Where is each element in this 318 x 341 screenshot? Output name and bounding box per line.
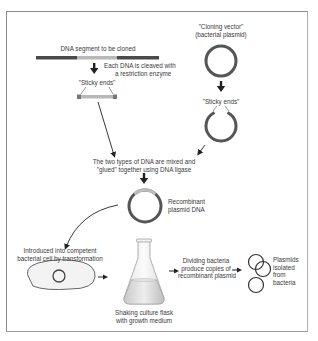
transformation-label-line2: bacterial cell by transformation <box>8 255 112 263</box>
to-transformation-arrow <box>66 205 118 247</box>
flask-label-line2: with growth medium <box>104 317 184 325</box>
cut-dna-fragment <box>77 87 117 99</box>
transformation-label-line1: Introduced into competent <box>8 247 112 255</box>
bacterial-cell <box>27 260 95 290</box>
cloning-vector-label-line2: (bacterial plasmid) <box>190 31 252 39</box>
isolated-label-line2: isolated <box>273 264 299 272</box>
cleave-label-line1: Each DNA is cleaved with <box>104 62 176 70</box>
dna-segment-bar <box>36 56 159 60</box>
sticky-ends-left-label: "Sticky ends" <box>74 79 120 87</box>
cloning-vector-label: "Cloning vector" (bacterial plasmid) <box>190 23 252 38</box>
cleave-label: Each DNA is cleaved with a restriction e… <box>104 62 176 77</box>
isolated-label-line1: Plasmids <box>273 256 299 264</box>
dividing-label-line1: Dividing bacteria <box>178 257 234 265</box>
recombinant-plasmid <box>129 190 161 222</box>
plasmid-to-ligase-arrow <box>199 145 205 153</box>
down-arrow-icon <box>140 173 148 184</box>
flask-label-line1: Shaking culture flask <box>104 309 184 317</box>
isolated-plasmids-label: Plasmids isolated from bacteria <box>273 256 299 286</box>
right-arrow-icon <box>98 275 108 280</box>
isolated-plasmids <box>249 255 271 293</box>
culture-flask-icon <box>124 239 164 304</box>
fragment-to-ligase-arrow <box>98 102 114 155</box>
sticky-ends-right-label: "Sticky ends" <box>198 98 244 106</box>
recombinant-label-line2: plasmid DNA <box>168 206 205 214</box>
dna-segment-label: DNA segment to be cloned <box>50 45 146 53</box>
cleave-label-line2: a restriction enzyme <box>104 70 176 78</box>
down-arrow-icon <box>90 63 98 74</box>
ligase-label-line1: The two types of DNA are mixed and <box>84 158 204 166</box>
cloning-vector-plasmid <box>206 46 236 76</box>
ligase-label: The two types of DNA are mixed and "glue… <box>84 158 204 173</box>
ligase-label-line2: "glued" together using DNA ligase <box>84 166 204 174</box>
recombinant-label: Recombinant plasmid DNA <box>168 198 205 213</box>
recombinant-label-line1: Recombinant <box>168 198 205 206</box>
cut-plasmid <box>206 106 236 141</box>
cloning-vector-label-line1: "Cloning vector" <box>190 23 252 31</box>
isolated-label-line4: bacteria <box>273 279 299 287</box>
isolated-label-line3: from <box>273 271 299 279</box>
transformation-label: Introduced into competent bacterial cell… <box>8 247 112 262</box>
flask-label: Shaking culture flask with growth medium <box>104 309 184 324</box>
dividing-label-line3: recombinant plasmid <box>178 272 234 280</box>
dividing-label-line2: produce copies of <box>178 265 234 273</box>
down-arrow-icon <box>217 81 225 92</box>
dividing-label: Dividing bacteria produce copies of reco… <box>178 257 234 280</box>
